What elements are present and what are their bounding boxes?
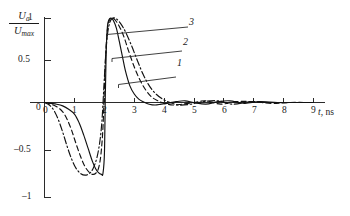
curve-series-2 [45, 18, 313, 174]
plot-canvas [0, 0, 350, 216]
leader-line-3 [107, 27, 188, 38]
curve-series-3 [45, 18, 313, 175]
curve-series-1 [45, 18, 313, 175]
curves-group [45, 18, 313, 176]
axes-group [30, 17, 325, 198]
waveform-chart: Ua Umax t, ns 1 0.5 0 –0.5 –1 0 1 2 3 4 … [0, 0, 350, 216]
leader-lines-group [107, 27, 188, 88]
